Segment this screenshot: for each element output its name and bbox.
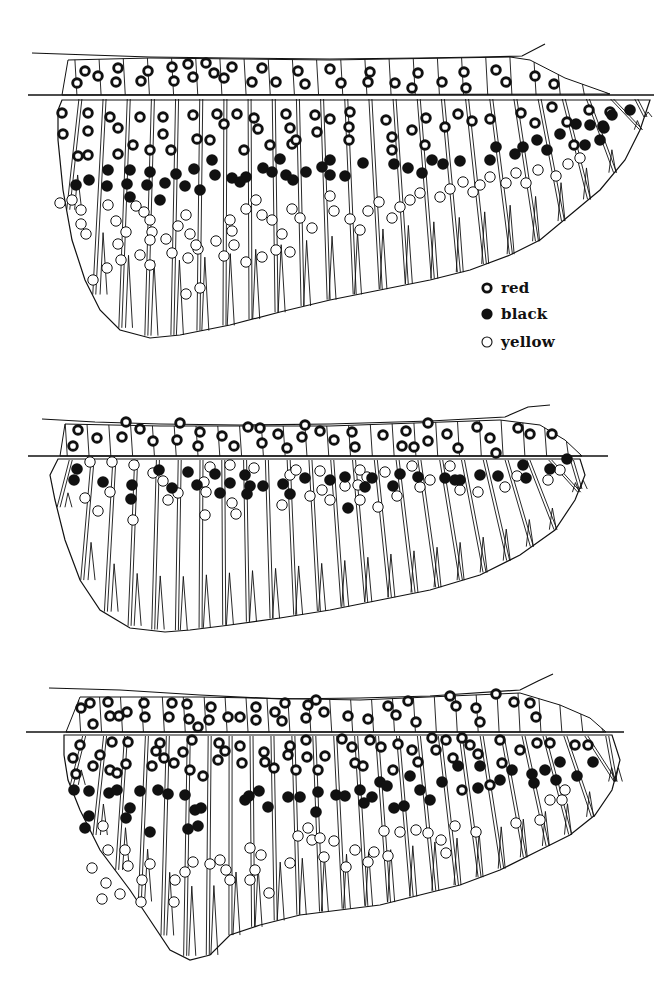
black-spot	[209, 468, 221, 480]
red-spot	[391, 79, 400, 88]
red-spot	[240, 146, 249, 155]
fin-ray-upper	[486, 57, 488, 95]
fin-ray	[295, 736, 300, 915]
red-spot	[69, 442, 78, 451]
red-spot	[122, 418, 131, 427]
black-spot	[102, 164, 114, 176]
black-spot	[474, 469, 486, 481]
red-spot	[89, 762, 98, 771]
yellow-spot	[145, 235, 155, 245]
red-spot	[96, 751, 105, 760]
red-spot	[585, 106, 594, 115]
yellow-spot	[511, 818, 521, 828]
red-spot	[364, 715, 373, 724]
legend: red black yellow	[481, 276, 555, 356]
fin-ray-branch	[157, 576, 164, 630]
red-spot	[346, 108, 355, 117]
red-spot	[236, 742, 245, 751]
fin-ray-branch	[202, 257, 209, 330]
black-spot	[300, 166, 312, 178]
fin-ray	[372, 99, 382, 289]
fin-ray-branch	[410, 846, 417, 897]
fin-ray-branch	[558, 183, 565, 221]
yellow-spot	[445, 184, 455, 194]
red-spot	[69, 754, 78, 763]
red-spot	[486, 781, 495, 790]
red-spot	[292, 766, 301, 775]
yellow-spot	[101, 878, 111, 888]
yellow-spot	[436, 835, 446, 845]
red-spot	[74, 426, 83, 435]
yellow-spot	[295, 213, 305, 223]
red-spot	[548, 103, 557, 112]
yellow-spot	[291, 465, 301, 475]
red-spot	[486, 434, 495, 443]
red-spot	[454, 110, 463, 119]
black-spot	[310, 806, 322, 818]
fin-ray-upper	[582, 84, 584, 95]
red-spot	[202, 59, 211, 68]
black-spot	[194, 184, 206, 196]
yellow-spot	[105, 487, 115, 497]
fin-ray	[222, 460, 223, 625]
black-spot	[126, 479, 138, 491]
black-spot	[83, 810, 95, 822]
yellow-spot	[392, 491, 402, 501]
red-spot	[412, 718, 421, 727]
red-spot	[348, 743, 357, 752]
black-spot	[517, 459, 529, 471]
black-spot	[206, 154, 218, 166]
yellow-spot	[225, 875, 235, 885]
red-spot	[179, 748, 188, 757]
yellow-spot	[557, 795, 567, 805]
red-spot	[548, 430, 557, 439]
red-spot	[194, 723, 203, 732]
red-spot	[140, 699, 149, 708]
black-spot	[506, 764, 518, 776]
black-spot	[339, 170, 351, 182]
black-spot	[339, 471, 351, 483]
red-spot	[320, 708, 329, 717]
black-spot	[239, 469, 251, 481]
red-spot	[379, 431, 388, 440]
red-spot	[351, 443, 360, 452]
red-spot	[422, 114, 431, 123]
black-spot	[324, 474, 336, 486]
black-spot	[124, 191, 136, 203]
red-spot	[410, 443, 419, 452]
red-spot	[326, 65, 335, 74]
red-spot	[160, 754, 169, 763]
red-spot	[274, 430, 283, 439]
fin-ray	[522, 736, 546, 846]
red-spot	[129, 141, 138, 150]
yellow-spot	[180, 867, 190, 877]
fin-ray-upper	[292, 60, 294, 95]
yellow-spot	[441, 848, 451, 858]
yellow-spot	[115, 889, 125, 899]
yellow-spot	[511, 168, 521, 178]
yellow-spot	[116, 255, 126, 265]
red-spot	[184, 60, 193, 69]
red-spot	[302, 714, 311, 723]
fin-ray	[393, 99, 405, 284]
fin-ray-branch	[189, 886, 196, 956]
red-spot	[254, 125, 263, 134]
yellow-spot	[67, 195, 77, 205]
fin-ray-branch	[480, 537, 487, 572]
red-spot	[104, 698, 113, 707]
black-spot	[339, 790, 351, 802]
red-spot	[93, 434, 102, 443]
red-spot	[408, 746, 417, 755]
fin-ray-branch	[405, 225, 412, 284]
red-spot	[189, 111, 198, 120]
red-spot	[199, 772, 208, 781]
fin-ray-branch	[365, 557, 372, 602]
yellow-spot	[201, 487, 211, 497]
black-spot	[179, 180, 191, 192]
yellow-spot	[458, 177, 468, 187]
red-spot	[563, 118, 572, 127]
red-spot	[348, 428, 357, 437]
red-spot	[261, 758, 270, 767]
red-spot	[207, 703, 216, 712]
fin-ray-branch	[431, 222, 438, 279]
